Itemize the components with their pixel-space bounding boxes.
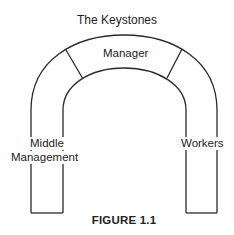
arch-inner-edge [63,68,186,213]
keystone-left-divider [66,50,83,79]
arch-diagram [0,0,234,235]
keystone-right-divider [167,49,182,78]
arch-outer-edge [31,35,217,213]
left-pillar-label-line1: Middle [29,137,65,150]
keystone-label-manager: Manager [103,47,148,60]
diagram-title: The Keystones [0,13,234,27]
figure-caption: FIGURE 1.1 [0,214,234,226]
right-pillar-label-workers: Workers [180,137,225,150]
left-pillar-label-line2: Management [10,151,79,164]
